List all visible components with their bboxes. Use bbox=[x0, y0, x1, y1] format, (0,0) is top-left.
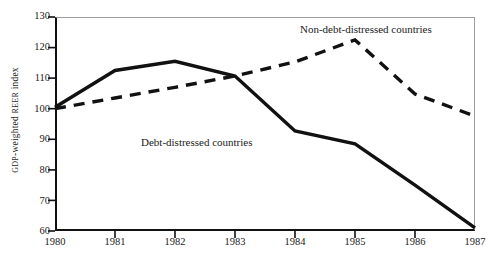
x-tick-1986: 1986 bbox=[395, 236, 435, 247]
y-axis-label-weighted: -weighted bbox=[10, 114, 20, 156]
y-tick-100: 100 bbox=[24, 104, 50, 114]
y-axis-label-gdp: GDP bbox=[11, 156, 20, 173]
x-tick-1981: 1981 bbox=[95, 236, 135, 247]
y-tick-90: 90 bbox=[24, 134, 50, 144]
x-tick-1983: 1983 bbox=[215, 236, 255, 247]
y-tick-110: 110 bbox=[24, 73, 50, 83]
y-tick-60: 60 bbox=[24, 226, 50, 236]
x-axis-tick-labels: 1980 1981 1982 1983 1984 1985 1986 1987 bbox=[0, 236, 493, 256]
y-axis-label-index: index bbox=[10, 67, 20, 92]
chart-figure: GDP-weighted REER index 130 120 110 100 … bbox=[0, 0, 493, 264]
plot-area bbox=[55, 17, 475, 231]
y-tick-130: 130 bbox=[24, 11, 50, 21]
y-axis-tick-labels: 130 120 110 100 90 80 70 60 bbox=[20, 0, 50, 264]
x-tick-1984: 1984 bbox=[275, 236, 315, 247]
x-tick-1980: 1980 bbox=[35, 236, 75, 247]
y-axis-label-reer: REER bbox=[11, 92, 20, 114]
y-tick-80: 80 bbox=[24, 165, 50, 175]
x-tick-1987: 1987 bbox=[455, 236, 493, 247]
annotation-debt-distressed: Debt-distressed countries bbox=[141, 136, 253, 148]
y-axis-label-text: GDP-weighted REER index bbox=[10, 67, 20, 173]
x-tick-1982: 1982 bbox=[155, 236, 195, 247]
x-tick-1985: 1985 bbox=[335, 236, 375, 247]
y-tick-70: 70 bbox=[24, 196, 50, 206]
y-tick-120: 120 bbox=[24, 42, 50, 52]
annotation-non-debt-distressed: Non-debt-distressed countries bbox=[300, 23, 432, 35]
